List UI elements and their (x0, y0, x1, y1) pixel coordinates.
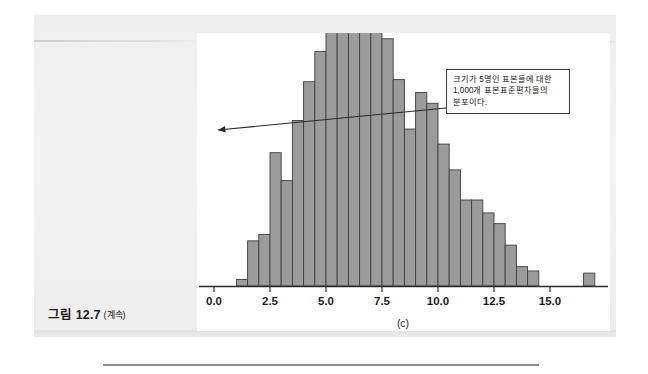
annotation-arrow-head (218, 126, 226, 132)
annotation-callout: 크기가 5명인 표본들에 대한 1,000개 표본표준편차들의 분포이다. (446, 69, 570, 114)
histogram-bar (505, 245, 516, 286)
scan-rule-bottom (103, 364, 539, 366)
histogram-bar (472, 200, 483, 286)
scan-rule-top (34, 40, 199, 42)
histogram-bar (449, 170, 460, 286)
histogram-bar (460, 200, 471, 286)
histogram-bar (393, 80, 404, 286)
histogram-bar (483, 213, 494, 286)
figure-caption-label: 그림 12.7 (48, 308, 101, 322)
histogram-bar (304, 82, 315, 286)
x-axis-tick-label: 10.0 (427, 295, 449, 307)
histogram-bar (528, 271, 539, 286)
histogram-bar (360, 33, 371, 286)
histogram-bar (292, 120, 303, 286)
histogram-bar (236, 280, 247, 286)
histogram-bar (584, 273, 595, 286)
x-axis-tick-label: 12.5 (483, 295, 506, 307)
histogram-bar (416, 93, 427, 287)
annotation-line-3: 분포이다. (453, 97, 564, 108)
histogram-bar (270, 153, 281, 286)
histogram-bar (326, 33, 337, 286)
histogram-bar (281, 181, 292, 286)
histogram-bar (382, 39, 393, 286)
histogram-bar (494, 224, 505, 286)
annotation-line-1: 크기가 5명인 표본들에 대한 (453, 74, 564, 85)
x-axis-tick-label: 5.0 (318, 295, 334, 307)
x-axis-tick-label: 15.0 (539, 295, 561, 307)
x-axis-tick-label: 7.5 (374, 295, 391, 307)
histogram-bar (315, 52, 326, 286)
x-axis-ticks: 0.02.55.07.510.012.515.0 (206, 287, 561, 307)
panel-label: (c) (397, 317, 409, 329)
figure-caption-continued: (계속) (104, 310, 126, 320)
histogram-bar (404, 129, 415, 286)
histogram-bar (438, 144, 449, 286)
histogram-bar (427, 103, 438, 286)
annotation-line-2: 1,000개 표본표준편차들의 (453, 85, 564, 96)
scan-shadow-bottom (34, 330, 616, 338)
figure-caption: 그림 12.7(계속) (48, 304, 126, 323)
histogram-bar (348, 33, 359, 286)
histogram-bar (259, 234, 270, 286)
figure-page: 0.02.55.07.510.012.515.0(c) 크기가 5명인 표본들에… (0, 0, 648, 374)
x-axis-tick-label: 0.0 (206, 295, 222, 307)
histogram-bar (371, 33, 382, 286)
histogram-bar (337, 33, 348, 286)
histogram-bar (516, 267, 527, 286)
histogram-bar (248, 241, 259, 286)
x-axis-tick-label: 2.5 (262, 295, 279, 307)
